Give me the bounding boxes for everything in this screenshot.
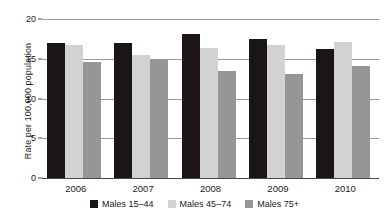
bar-groups: 20062007200820092010 [42,19,379,178]
y-tick-label: 5 [31,133,36,143]
bar [132,55,150,178]
bars [244,19,311,178]
bars [177,19,244,178]
bar-group: 2010 [312,19,379,178]
y-tick-label: 15 [26,54,36,64]
x-tick-label: 2008 [177,183,244,194]
bar-group: 2009 [244,19,311,178]
bar [65,45,83,178]
bar-group: 2006 [42,19,109,178]
bar-group: 2008 [177,19,244,178]
bar [267,45,285,178]
bar [182,34,200,178]
x-tick-label: 2007 [109,183,176,194]
bar [352,66,370,178]
chart-legend: Males 15–44Males 45–74Males 75+ [0,199,389,209]
bar [249,39,267,178]
legend-label: Males 45–74 [180,199,232,209]
bar-chart: Rate per 100,000 population 05101520 200… [0,0,389,222]
bar [83,62,101,178]
legend-item: Males 15–44 [90,199,154,209]
bar [334,42,352,178]
bar [218,71,236,178]
y-tick-label: 20 [26,14,36,24]
bar [285,74,303,178]
x-tick-label: 2006 [42,183,109,194]
bar-group: 2007 [109,19,176,178]
gridline-0 [42,178,379,179]
x-tick-label: 2009 [244,183,311,194]
legend-item: Males 45–74 [168,199,232,209]
bars [109,19,176,178]
bar [114,43,132,178]
legend-swatch-icon [168,200,176,208]
bar [150,60,168,178]
legend-item: Males 75+ [245,199,299,209]
x-tick-label: 2010 [312,183,379,194]
bars [42,19,109,178]
legend-swatch-icon [90,200,98,208]
bars [312,19,379,178]
plot-area: 05101520 20062007200820092010 [42,19,379,178]
legend-label: Males 75+ [257,199,299,209]
legend-swatch-icon [245,200,253,208]
y-tick-label: 0 [31,173,36,183]
bar [47,43,65,178]
bar [200,48,218,178]
y-tick-label: 10 [26,94,36,104]
legend-label: Males 15–44 [102,199,154,209]
bar [316,49,334,178]
